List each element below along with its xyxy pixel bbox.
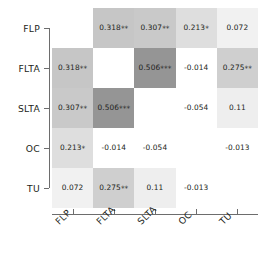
heatmap-cell-oc-oc <box>176 128 217 168</box>
x-tick-oc <box>196 209 197 215</box>
cell-value: 0.275 <box>99 184 121 191</box>
cell-value: 0.307 <box>58 104 80 111</box>
heatmap-grid: 0.318**0.307**0.213*0.0720.318**0.506***… <box>52 8 258 208</box>
x-tick-tu <box>237 209 238 215</box>
heatmap-cell-flta-flta <box>93 48 134 88</box>
x-axis-label-oc: OC <box>176 209 194 227</box>
cell-value: -0.014 <box>102 144 126 151</box>
cell-value: 0.275 <box>223 64 245 71</box>
significance-stars: *** <box>119 104 130 113</box>
heatmap-cell-flp-oc: 0.213* <box>176 8 217 48</box>
correlation-matrix-heatmap: FLPFLTASLTAOCTU 0.318**0.307**0.213*0.07… <box>0 0 265 255</box>
heatmap-cell-slta-flp: 0.307** <box>52 88 93 128</box>
heatmap-cell-tu-oc: -0.013 <box>176 168 217 208</box>
heatmap-cell-slta-slta <box>134 88 175 128</box>
heatmap-cell-flta-oc: -0.014 <box>176 48 217 88</box>
heatmap-cell-flp-slta: 0.307** <box>134 8 175 48</box>
cell-value: 0.318 <box>99 24 121 31</box>
heatmap-cell-flp-flp <box>52 8 93 48</box>
y-tick-oc <box>44 148 49 149</box>
heatmap-cell-tu-slta: 0.11 <box>134 168 175 208</box>
cell-value: 0.11 <box>229 104 246 111</box>
y-axis-label-tu: TU <box>27 183 40 194</box>
x-axis: FLPFLTASLTAOCTU <box>52 208 258 255</box>
heatmap-cell-flp-flta: 0.318** <box>93 8 134 48</box>
cell-value: -0.013 <box>225 144 249 151</box>
x-axis-label-flta: FLTA <box>94 204 117 227</box>
significance-stars: ** <box>121 184 128 193</box>
cell-value: 0.213 <box>184 24 206 31</box>
y-axis-label-flp: FLP <box>23 23 40 34</box>
cell-value: -0.054 <box>184 104 208 111</box>
cell-value: 0.506 <box>97 104 119 111</box>
x-axis-label-flp: FLP <box>53 207 73 227</box>
significance-stars: ** <box>121 24 128 33</box>
cell-value: 0.072 <box>227 24 249 31</box>
heatmap-cell-tu-flta: 0.275** <box>93 168 134 208</box>
significance-stars: * <box>82 144 86 153</box>
heatmap-cell-flta-tu: 0.275** <box>217 48 258 88</box>
heatmap-cell-flta-slta: 0.506*** <box>134 48 175 88</box>
y-axis-label-flta: FLTA <box>18 63 40 74</box>
heatmap-cell-tu-flp: 0.072 <box>52 168 93 208</box>
heatmap-cell-flta-flp: 0.318** <box>52 48 93 88</box>
heatmap-cell-oc-tu: -0.013 <box>217 128 258 168</box>
y-tick-flta <box>44 68 49 69</box>
heatmap-cell-oc-slta: -0.054 <box>134 128 175 168</box>
cell-value: 0.072 <box>62 184 84 191</box>
heatmap-cell-slta-tu: 0.11 <box>217 88 258 128</box>
heatmap-cell-tu-tu <box>217 168 258 208</box>
cell-value: 0.213 <box>60 144 82 151</box>
cell-value: -0.013 <box>184 184 208 191</box>
cell-value: 0.307 <box>140 24 162 31</box>
heatmap-cell-oc-flta: -0.014 <box>93 128 134 168</box>
significance-stars: ** <box>80 64 87 73</box>
significance-stars: *** <box>160 64 171 73</box>
heatmap-cell-flp-tu: 0.072 <box>217 8 258 48</box>
heatmap-cell-oc-flp: 0.213* <box>52 128 93 168</box>
heatmap-cell-slta-flta: 0.506*** <box>93 88 134 128</box>
significance-stars: ** <box>80 104 87 113</box>
y-axis-label-oc: OC <box>26 143 40 154</box>
significance-stars: ** <box>245 64 252 73</box>
heatmap-cell-slta-oc: -0.054 <box>176 88 217 128</box>
y-tick-tu <box>44 188 49 189</box>
cell-value: 0.506 <box>139 64 161 71</box>
significance-stars: ** <box>162 24 169 33</box>
cell-value: -0.054 <box>143 144 167 151</box>
y-axis: FLPFLTASLTAOCTU <box>0 8 50 208</box>
y-axis-label-slta: SLTA <box>18 103 40 114</box>
y-axis-spine <box>49 28 50 188</box>
significance-stars: * <box>205 24 209 33</box>
cell-value: 0.318 <box>58 64 80 71</box>
cell-value: 0.11 <box>147 184 164 191</box>
cell-value: -0.014 <box>184 64 208 71</box>
x-axis-label-tu: TU <box>217 210 234 227</box>
y-tick-slta <box>44 108 49 109</box>
y-tick-flp <box>44 28 49 29</box>
